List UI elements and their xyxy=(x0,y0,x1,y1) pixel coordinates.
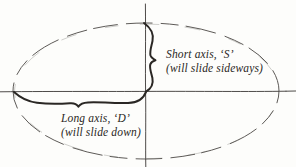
short-axis-label-line2: (will slide sideways) xyxy=(166,62,263,76)
long-axis-label-line1: Long axis, ‘D’ xyxy=(61,112,130,124)
long-axis-annotation: Long axis, ‘D’ (will slide down) xyxy=(61,112,141,139)
figure-drawing xyxy=(0,0,296,167)
long-axis-curve xyxy=(14,92,146,107)
long-axis-label-line2: (will slide down) xyxy=(61,126,141,140)
figure-canvas: Short axis, ‘S’ (will slide sideways) Lo… xyxy=(0,0,296,167)
short-axis-label-line1: Short axis, ‘S’ xyxy=(166,48,234,60)
short-axis-annotation: Short axis, ‘S’ (will slide sideways) xyxy=(166,48,263,75)
